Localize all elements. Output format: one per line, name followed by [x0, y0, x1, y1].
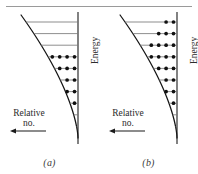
population-dot	[157, 43, 161, 47]
population-dot	[164, 55, 168, 59]
population-dot	[65, 78, 69, 82]
population-dot	[164, 78, 168, 82]
relative-no-label-b-line2: no.	[104, 118, 152, 128]
population-dot	[58, 67, 62, 71]
population-dot	[149, 43, 153, 47]
population-dot	[172, 43, 176, 47]
caption-b: (b)	[99, 157, 198, 168]
population-dot	[73, 90, 77, 94]
population-dot	[164, 20, 168, 24]
population-dot	[157, 32, 161, 36]
population-dot	[65, 67, 69, 71]
population-dot	[172, 90, 176, 94]
population-dot	[73, 78, 77, 82]
population-dot	[149, 55, 153, 59]
population-dot	[172, 78, 176, 82]
population-dot	[73, 67, 77, 71]
population-dot	[58, 55, 62, 59]
population-dot	[164, 67, 168, 71]
population-dot	[164, 43, 168, 47]
relative-no-label-b-line1: Relative	[104, 108, 152, 118]
population-dot	[65, 90, 69, 94]
population-dot	[172, 20, 176, 24]
population-dot	[164, 90, 168, 94]
population-dot	[50, 55, 54, 59]
relative-no-label-a-line1: Relative	[5, 108, 53, 118]
relative-no-label-a-line2: no.	[5, 118, 53, 128]
caption-a: (a)	[0, 157, 99, 168]
panel-a: Energy Relative no. (a)	[0, 0, 99, 174]
population-dot	[157, 55, 161, 59]
population-dot	[172, 55, 176, 59]
relative-no-arrow-head	[10, 128, 16, 133]
panel-a-diagram	[0, 0, 99, 174]
figure-root: Energy Relative no. (a) Energy Relative …	[0, 0, 198, 174]
panel-b: Energy Relative no. (b)	[99, 0, 198, 174]
panel-b-diagram	[99, 0, 198, 174]
relative-no-arrow-head	[109, 128, 115, 133]
population-dot	[172, 32, 176, 36]
population-dot	[73, 55, 77, 59]
population-dot	[172, 67, 176, 71]
population-dot	[73, 101, 77, 105]
energy-axis-label-b: Energy	[189, 37, 198, 64]
population-dot	[164, 32, 168, 36]
population-dot	[172, 101, 176, 105]
population-dot	[157, 67, 161, 71]
population-dot	[65, 55, 69, 59]
